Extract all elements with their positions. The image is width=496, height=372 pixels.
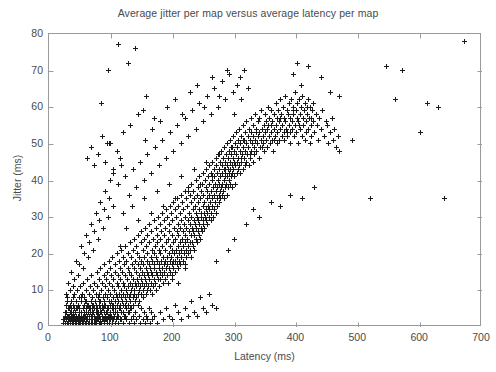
scatter-point (94, 317, 99, 322)
scatter-point (198, 237, 203, 242)
scatter-point (194, 237, 199, 242)
scatter-point (269, 123, 274, 128)
scatter-point (149, 211, 154, 216)
scatter-point (167, 314, 172, 319)
scatter-point (260, 145, 265, 150)
scatter-point (213, 182, 218, 187)
scatter-point (203, 215, 208, 220)
scatter-point (181, 259, 186, 264)
scatter-point (68, 321, 73, 325)
scatter-point (192, 218, 197, 223)
scatter-point (98, 299, 103, 304)
scatter-point (174, 248, 179, 253)
scatter-point (188, 222, 193, 227)
scatter-point (108, 310, 113, 315)
scatter-point (123, 174, 128, 179)
scatter-point (204, 185, 209, 190)
scatter-point (151, 237, 156, 242)
scatter-point (85, 277, 90, 282)
scatter-point (195, 215, 200, 220)
scatter-point (143, 226, 148, 231)
scatter-point (216, 105, 221, 110)
scatter-point (293, 123, 298, 128)
scatter-point (106, 215, 111, 220)
scatter-point (127, 295, 132, 300)
scatter-point (114, 317, 119, 322)
scatter-point (85, 317, 90, 322)
scatter-point (152, 314, 157, 319)
scatter-point (220, 193, 225, 198)
scatter-point (204, 218, 209, 223)
scatter-point (225, 68, 230, 73)
scatter-point (259, 138, 264, 143)
scatter-point (183, 215, 188, 220)
scatter-point (275, 130, 280, 135)
scatter-point (121, 310, 126, 315)
scatter-point (82, 251, 87, 256)
scatter-point (200, 229, 205, 234)
scatter-point (322, 134, 327, 139)
scatter-point (111, 171, 116, 176)
scatter-point (150, 248, 155, 253)
scatter-point (218, 189, 223, 194)
scatter-point (124, 288, 129, 293)
scatter-point (202, 105, 207, 110)
scatter-point (136, 233, 141, 238)
scatter-point (115, 310, 120, 315)
scatter-point (248, 152, 253, 157)
scatter-point (239, 134, 244, 139)
scatter-point (167, 266, 172, 271)
scatter-point (80, 321, 85, 325)
scatter-point (231, 167, 236, 172)
scatter-point (223, 97, 228, 102)
scatter-point (124, 259, 129, 264)
scatter-point (149, 171, 154, 176)
scatter-point (83, 321, 88, 325)
scatter-point (244, 160, 249, 165)
scatter-point (113, 321, 118, 325)
scatter-point (87, 321, 92, 325)
scatter-point (212, 193, 217, 198)
scatter-point (232, 237, 237, 242)
scatter-point (130, 204, 135, 209)
scatter-point (177, 259, 182, 264)
scatter-point (225, 141, 230, 146)
scatter-point (106, 314, 111, 319)
scatter-point (173, 303, 178, 308)
scatter-point (154, 226, 159, 231)
scatter-point (183, 116, 188, 121)
scatter-point (212, 174, 217, 179)
scatter-point (71, 314, 76, 319)
scatter-point (133, 310, 138, 315)
scatter-point (308, 141, 313, 146)
scatter-point (79, 310, 84, 315)
scatter-point (171, 259, 176, 264)
scatter-point (128, 240, 133, 245)
scatter-point (400, 68, 405, 73)
scatter-point (102, 317, 107, 322)
scatter-point (163, 248, 168, 253)
scatter-point (146, 284, 151, 289)
scatter-point (169, 255, 174, 260)
scatter-point (135, 277, 140, 282)
scatter-point (243, 149, 248, 154)
scatter-point (115, 281, 120, 286)
scatter-point (125, 292, 130, 297)
scatter-point (97, 321, 102, 325)
scatter-point (191, 189, 196, 194)
scatter-point (153, 281, 158, 286)
scatter-point (302, 108, 307, 113)
scatter-point (148, 266, 153, 271)
scatter-point (299, 83, 304, 88)
scatter-point (102, 299, 107, 304)
scatter-point (253, 138, 258, 143)
scatter-point (64, 317, 69, 322)
scatter-point (81, 306, 86, 311)
scatter-point (297, 123, 302, 128)
scatter-point (76, 317, 81, 322)
scatter-point (94, 303, 99, 308)
scatter-point (126, 251, 131, 256)
scatter-point (92, 317, 97, 322)
scatter-point (64, 292, 69, 297)
scatter-point (116, 314, 121, 319)
